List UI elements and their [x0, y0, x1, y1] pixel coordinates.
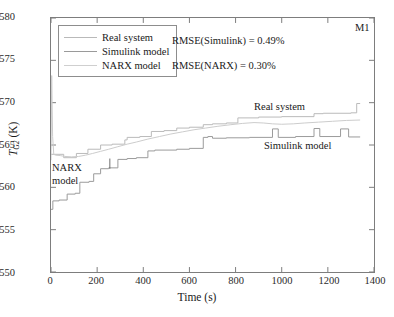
- ytick-label: 555: [0, 225, 15, 235]
- legend-entry-narx-model: NARX model: [64, 58, 169, 72]
- inline-label-simulink-model: Simulink model: [264, 140, 331, 151]
- legend-swatch-real-system: [64, 37, 97, 38]
- xtick-label: 1200: [305, 275, 353, 286]
- xtick-label: 0: [26, 275, 74, 286]
- legend-swatch-narx-model: [64, 65, 97, 66]
- rmse-narx-annotation: RMSE(NARX) = 0.30%: [172, 60, 276, 71]
- figure-panel: 580 575 570 565 560 555 550 0 200 400 60…: [0, 0, 394, 317]
- legend-label-real-system: Real system: [102, 32, 153, 43]
- y-axis-subscript: G2: [12, 140, 21, 149]
- y-axis-unit: (K): [7, 122, 19, 141]
- rmse-simulink-annotation: RMSE(Simulink) = 0.49%: [172, 35, 284, 46]
- inline-label-real-system: Real system: [254, 101, 305, 112]
- ytick-label: 580: [0, 12, 15, 22]
- ytick-label: 550: [0, 268, 15, 278]
- legend-swatch-simulink-model: [64, 51, 97, 52]
- xtick-label: 1400: [351, 275, 394, 286]
- legend-box: Real system Simulink model NARX model: [58, 25, 177, 77]
- xtick-label: 600: [165, 275, 213, 286]
- legend-entry-simulink-model: Simulink model: [64, 44, 169, 58]
- x-axis-label: Time (s): [0, 291, 394, 303]
- inline-label-narx-line1: NARX: [52, 161, 82, 174]
- panel-label-m1: M1: [355, 22, 370, 33]
- ytick-label: 575: [0, 54, 15, 64]
- xtick-label: 400: [119, 275, 167, 286]
- legend-label-narx-model: NARX model: [102, 60, 161, 71]
- inline-label-narx-line2: model: [52, 174, 82, 187]
- y-axis-symbol: T: [7, 150, 19, 156]
- xtick-label: 200: [72, 275, 120, 286]
- legend-label-simulink-model: Simulink model: [102, 46, 169, 57]
- legend-entry-real-system: Real system: [64, 30, 169, 44]
- xtick-label: 800: [212, 275, 260, 286]
- xtick-label: 1000: [258, 275, 306, 286]
- y-axis-label: TG2 (K): [7, 89, 21, 189]
- inline-label-narx-model: NARX model: [52, 161, 82, 187]
